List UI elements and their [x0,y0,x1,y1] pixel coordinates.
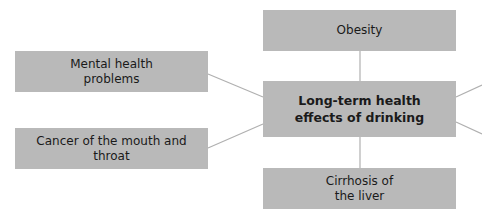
connector-right-lower [456,122,482,134]
node-obesity-label: Obesity [337,23,383,38]
connector-mental [208,74,263,97]
connector-right-upper [456,85,482,97]
node-cancer-label: Cancer of the mouth and throat [19,134,204,164]
node-center: Long-term health effects of drinking [263,81,456,137]
node-cancer: Cancer of the mouth and throat [15,128,208,169]
node-cirrhosis: Cirrhosis of the liver [263,168,456,209]
node-center-label: Long-term health effects of drinking [277,92,442,126]
node-mental-health: Mental health problems [15,51,208,92]
node-cirrhosis-label: Cirrhosis of the liver [318,174,401,204]
connector-cancer [208,124,263,148]
node-obesity: Obesity [263,10,456,51]
node-mental-health-label: Mental health problems [55,57,168,87]
